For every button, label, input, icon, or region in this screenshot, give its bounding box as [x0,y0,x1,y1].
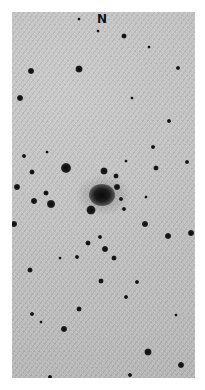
star [59,257,62,260]
star [175,314,178,317]
star [31,198,37,204]
star [131,97,134,100]
star [178,362,184,368]
star [75,255,79,259]
star [22,154,26,158]
star [142,221,148,227]
star [145,196,148,199]
star-field-image [12,12,195,378]
star [124,295,128,299]
star [101,168,108,175]
star [185,160,189,164]
star [135,280,139,284]
star [122,207,126,211]
star [28,68,34,74]
star [48,375,52,378]
star [88,210,91,213]
star [30,170,35,175]
star [154,166,159,171]
star [114,174,119,179]
star [61,163,71,173]
star [98,235,102,239]
star [28,268,33,273]
central-galaxy [89,184,115,206]
star [14,184,20,190]
star [122,34,127,39]
star [30,312,34,316]
star [112,256,117,261]
star [47,200,55,208]
star [165,233,171,239]
star [61,326,67,332]
star [145,349,152,356]
star [148,46,151,49]
star [99,279,104,284]
star [114,184,120,190]
star [102,246,108,252]
star [151,145,155,149]
star [176,66,180,70]
star [125,160,128,163]
star [78,18,81,21]
north-orientation-label: N [97,13,107,25]
star [17,95,23,101]
star [97,30,100,33]
star [188,230,194,236]
star [76,66,83,73]
star [46,151,49,154]
star [128,373,132,377]
star [40,321,43,324]
star [119,197,123,201]
star [77,307,82,312]
star [167,119,171,123]
star [44,191,49,196]
star [86,241,91,246]
